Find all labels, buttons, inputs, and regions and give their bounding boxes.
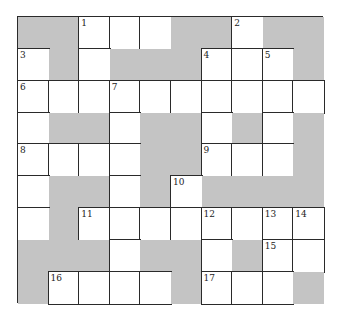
crossword-cell[interactable] (232, 81, 263, 113)
blocked-cell (293, 272, 324, 304)
blocked-cell (49, 240, 80, 272)
crossword-cell[interactable]: 12 (202, 208, 233, 240)
crossword-cell[interactable] (263, 113, 294, 145)
blocked-cell (140, 176, 171, 208)
blocked-cell (293, 17, 324, 49)
crossword-cell[interactable]: 17 (202, 272, 233, 304)
crossword-cell[interactable]: 3 (18, 49, 49, 81)
crossword-cell[interactable] (171, 81, 202, 113)
crossword-cell[interactable]: 10 (171, 176, 202, 208)
clue-number: 16 (51, 273, 62, 283)
blocked-cell (49, 49, 80, 81)
crossword-cell[interactable] (232, 272, 263, 304)
clue-number: 1 (81, 18, 87, 28)
blocked-cell (293, 113, 324, 145)
crossword-cell[interactable] (110, 272, 141, 304)
crossword-grid: 1234567891011121314151617 (17, 16, 323, 303)
crossword-cell[interactable]: 2 (232, 17, 263, 49)
crossword-cell[interactable] (18, 113, 49, 145)
crossword-cell[interactable] (202, 81, 233, 113)
crossword-cell[interactable] (293, 81, 324, 113)
blocked-cell (202, 17, 233, 49)
crossword-cell[interactable] (140, 208, 171, 240)
blocked-cell (171, 272, 202, 304)
clue-number: 12 (204, 209, 215, 219)
clue-number: 8 (20, 145, 26, 155)
blocked-cell (79, 176, 110, 208)
crossword-cell[interactable] (140, 272, 171, 304)
blocked-cell (293, 144, 324, 176)
blocked-cell (293, 176, 324, 208)
blocked-cell (232, 113, 263, 145)
crossword-cell[interactable]: 7 (110, 81, 141, 113)
clue-number: 14 (295, 209, 306, 219)
crossword-cell[interactable] (110, 176, 141, 208)
blocked-cell (232, 240, 263, 272)
blocked-cell (140, 144, 171, 176)
clue-number: 11 (81, 209, 92, 219)
crossword-cell[interactable] (18, 208, 49, 240)
crossword-cell[interactable]: 15 (263, 240, 294, 272)
crossword-cell[interactable] (79, 272, 110, 304)
crossword-cell[interactable]: 6 (18, 81, 49, 113)
crossword-cell[interactable]: 9 (202, 144, 233, 176)
crossword-cell[interactable] (293, 240, 324, 272)
crossword-cell[interactable] (49, 144, 80, 176)
blocked-cell (171, 240, 202, 272)
blocked-cell (171, 17, 202, 49)
crossword-cell[interactable] (79, 49, 110, 81)
clue-number: 6 (20, 82, 26, 92)
blocked-cell (232, 176, 263, 208)
blocked-cell (79, 240, 110, 272)
blocked-cell (293, 49, 324, 81)
crossword-cell[interactable]: 1 (79, 17, 110, 49)
blocked-cell (110, 49, 141, 81)
crossword-cell[interactable] (171, 208, 202, 240)
crossword-cell[interactable]: 8 (18, 144, 49, 176)
blocked-cell (171, 113, 202, 145)
crossword-cell[interactable] (140, 81, 171, 113)
crossword-cell[interactable] (202, 113, 233, 145)
crossword-cell[interactable]: 13 (263, 208, 294, 240)
blocked-cell (49, 176, 80, 208)
crossword-cell[interactable] (232, 144, 263, 176)
crossword-cell[interactable] (232, 49, 263, 81)
crossword-cell[interactable] (79, 144, 110, 176)
crossword-cell[interactable] (263, 81, 294, 113)
crossword-cell[interactable]: 14 (293, 208, 324, 240)
crossword-cell[interactable] (110, 240, 141, 272)
blocked-cell (79, 113, 110, 145)
crossword-cell[interactable]: 5 (263, 49, 294, 81)
clue-number: 15 (265, 241, 276, 251)
clue-number: 10 (173, 177, 184, 187)
clue-number: 17 (204, 273, 215, 283)
blocked-cell (18, 17, 49, 49)
blocked-cell (171, 144, 202, 176)
blocked-cell (18, 240, 49, 272)
crossword-cell[interactable] (49, 81, 80, 113)
crossword-cell[interactable]: 11 (79, 208, 110, 240)
clue-number: 5 (265, 50, 271, 60)
crossword-cell[interactable] (110, 113, 141, 145)
clue-number: 3 (20, 50, 26, 60)
crossword-cell[interactable] (263, 272, 294, 304)
crossword-cell[interactable] (140, 17, 171, 49)
crossword-cell[interactable] (110, 17, 141, 49)
blocked-cell (140, 240, 171, 272)
clue-number: 7 (112, 82, 118, 92)
crossword-cell[interactable] (110, 208, 141, 240)
blocked-cell (202, 176, 233, 208)
crossword-cell[interactable] (202, 240, 233, 272)
crossword-cell[interactable] (18, 176, 49, 208)
blocked-cell (263, 17, 294, 49)
crossword-cell[interactable] (232, 208, 263, 240)
crossword-cell[interactable] (263, 144, 294, 176)
crossword-cell[interactable]: 4 (202, 49, 233, 81)
clue-number: 2 (234, 18, 240, 28)
blocked-cell (140, 49, 171, 81)
clue-number: 13 (265, 209, 276, 219)
crossword-cell[interactable] (110, 144, 141, 176)
crossword-cell[interactable]: 16 (49, 272, 80, 304)
crossword-cell[interactable] (79, 81, 110, 113)
clue-number: 4 (204, 50, 210, 60)
